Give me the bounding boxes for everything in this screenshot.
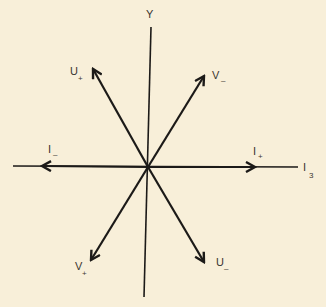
label-v-minus-subscript: –: [221, 76, 226, 85]
vector-u-minus-arrow: [148, 167, 204, 262]
i3-axis-label-main: I: [303, 161, 306, 173]
weight-diagram: Y I 3 U + V – I – I + V +: [0, 0, 326, 307]
label-i-plus-subscript: +: [258, 152, 263, 161]
y-axis-label: Y: [146, 8, 154, 20]
vector-v-plus-arrow: [91, 167, 148, 260]
i3-axis-label: I 3: [303, 161, 314, 180]
label-u-minus: U –: [216, 256, 229, 273]
label-v-plus: V +: [75, 260, 87, 278]
vector-u-plus-arrow: [93, 69, 148, 167]
label-v-minus: V –: [212, 69, 226, 85]
label-i-plus: I +: [253, 145, 263, 161]
label-v-plus-subscript: +: [82, 269, 87, 278]
label-u-plus-main: U: [70, 65, 78, 77]
label-i-minus: I –: [48, 143, 58, 159]
label-v-minus-main: V: [212, 69, 220, 81]
label-u-minus-main: U: [216, 256, 224, 268]
label-i-minus-main: I: [48, 143, 51, 155]
label-i-plus-main: I: [253, 145, 256, 157]
vector-i-minus-arrow: [42, 166, 148, 167]
label-u-plus-subscript: +: [78, 74, 83, 83]
label-i-minus-subscript: –: [53, 150, 58, 159]
vector-v-minus-arrow: [148, 76, 204, 167]
i3-axis-label-subscript: 3: [309, 171, 314, 180]
label-u-minus-subscript: –: [224, 264, 229, 273]
diagram-canvas: Y I 3 U + V – I – I + V +: [0, 0, 326, 307]
label-u-plus: U +: [70, 65, 83, 83]
